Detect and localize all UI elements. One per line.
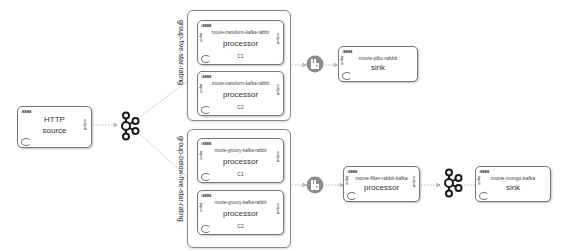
node-type: sink	[339, 63, 417, 72]
transform-c1-node[interactable]: :8888 movie-transform-kafka-rabbit proce…	[197, 20, 284, 65]
node-type: processor	[198, 90, 283, 99]
node-type: processor	[198, 39, 283, 48]
output-port[interactable]: output	[276, 33, 281, 44]
input-port[interactable]: input	[345, 176, 350, 185]
node-name: movie-mongo-kafka	[476, 175, 550, 181]
output-port[interactable]: output	[412, 176, 417, 187]
group-label: group-five-star-rating	[178, 20, 185, 85]
input-port[interactable]: input	[199, 84, 204, 93]
app-swirl-icon	[201, 55, 211, 63]
port-label: :8888	[347, 169, 357, 174]
app-swirl-icon	[479, 192, 489, 200]
transform-c2-node[interactable]: :8888 movie-transform-kafka-rabbit proce…	[197, 71, 284, 116]
app-swirl-icon	[342, 72, 352, 80]
output-port[interactable]: output	[276, 203, 281, 214]
node-type: sink	[476, 183, 550, 192]
filter-processor-node[interactable]: :8888 movie-filter-rabbit-kafka processo…	[343, 166, 420, 202]
port-label: :8888	[201, 193, 211, 198]
app-swirl-icon	[201, 173, 211, 181]
groovy-c2-node[interactable]: :8888 movie-groovy-kafka-rabbit processo…	[197, 190, 284, 235]
node-name: movie-filter-rabbit-kafka	[344, 175, 419, 181]
kafka-icon[interactable]	[117, 111, 141, 141]
app-swirl-icon	[201, 225, 211, 233]
input-port[interactable]: input	[340, 56, 345, 65]
port-label: :8888	[21, 109, 31, 114]
output-port[interactable]: output	[83, 119, 88, 130]
flow-canvas: :8888 HTTP source output group-five-star…	[0, 0, 566, 251]
port-label: :8888	[201, 23, 211, 28]
node-name: movie-groovy-kafka-rabbit	[198, 200, 283, 205]
node-name: movie-transform-kafka-rabbit	[198, 30, 283, 35]
node-type: source	[18, 126, 91, 135]
port-label: :8888	[201, 141, 211, 146]
rabbitmq-icon[interactable]	[306, 176, 324, 194]
input-port[interactable]: input	[199, 151, 204, 160]
app-swirl-icon	[21, 138, 31, 146]
output-port[interactable]: output	[276, 84, 281, 95]
node-type: processor	[344, 183, 419, 192]
port-label: :8888	[479, 169, 489, 174]
node-type: processor	[198, 209, 283, 218]
node-type: processor	[198, 157, 283, 166]
mongo-sink-node[interactable]: :8888 movie-mongo-kafka sink input	[475, 166, 551, 202]
port-label: :8888	[201, 74, 211, 79]
rabbitmq-icon[interactable]	[306, 55, 324, 73]
node-name: HTTP	[18, 115, 91, 124]
kafka-icon[interactable]	[440, 168, 464, 198]
app-swirl-icon	[347, 192, 357, 200]
app-swirl-icon	[201, 106, 211, 114]
node-name: movie-jdbc-rabbit	[339, 55, 417, 61]
node-name: movie-groovy-kafka-rabbit	[198, 148, 283, 153]
output-port[interactable]: output	[276, 151, 281, 162]
http-source-node[interactable]: :8888 HTTP source output	[17, 106, 92, 148]
port-label: :8888	[342, 49, 352, 54]
group-label: group-below-five-star-rating	[178, 136, 185, 222]
input-port[interactable]: input	[199, 203, 204, 212]
groovy-c1-node[interactable]: :8888 movie-groovy-kafka-rabbit processo…	[197, 138, 284, 183]
node-name: movie-transform-kafka-rabbit	[198, 81, 283, 86]
input-port[interactable]: input	[199, 33, 204, 42]
jdbc-sink-node[interactable]: :8888 movie-jdbc-rabbit sink input	[338, 46, 418, 82]
input-port[interactable]: input	[477, 176, 482, 185]
